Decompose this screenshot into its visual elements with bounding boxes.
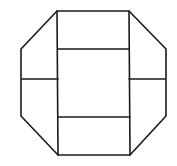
center-left-vertical [57, 11, 58, 155]
octagon-outline [21, 11, 166, 155]
diagram-canvas [0, 0, 177, 166]
center-right-vertical [129, 11, 130, 155]
inner-segments [22, 11, 165, 155]
octagon-net-diagram [0, 0, 177, 166]
